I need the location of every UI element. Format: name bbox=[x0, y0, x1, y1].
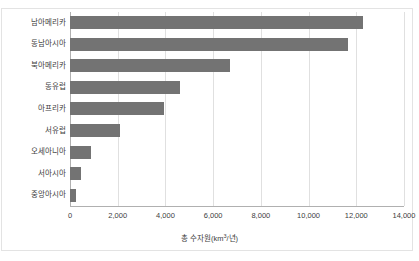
bar-row[interactable] bbox=[70, 184, 76, 206]
gridline bbox=[404, 12, 405, 206]
bar-row[interactable] bbox=[70, 163, 81, 185]
x-tick-label: 10,000 bbox=[297, 211, 320, 220]
x-tick-label: 4,000 bbox=[156, 211, 175, 220]
bar-row[interactable] bbox=[70, 77, 180, 99]
category-axis-labels: 남아메리카동남아시아북아메리카동유럽아프리카서유럽오세아니아서아시아중앙아시아 bbox=[0, 12, 66, 206]
category-label: 서유럽 bbox=[0, 127, 66, 135]
category-label: 오세아니아 bbox=[0, 148, 66, 156]
bar-row[interactable] bbox=[70, 120, 120, 142]
x-axis-title-prefix: 총 수자원(km bbox=[181, 234, 224, 243]
bar-row[interactable] bbox=[70, 141, 91, 163]
bar[interactable] bbox=[70, 124, 120, 137]
plot-area bbox=[70, 12, 404, 206]
bar-row[interactable] bbox=[70, 34, 348, 56]
x-tick-label: 6,000 bbox=[204, 211, 223, 220]
category-label: 남아메리카 bbox=[0, 19, 66, 27]
bar[interactable] bbox=[70, 59, 230, 72]
category-label: 동남아시아 bbox=[0, 40, 66, 48]
category-label: 중앙아시아 bbox=[0, 191, 66, 199]
x-tick-label: 12,000 bbox=[345, 211, 368, 220]
x-tick-label: 2,000 bbox=[108, 211, 127, 220]
x-axis-line bbox=[70, 206, 404, 207]
bar-row[interactable] bbox=[70, 98, 164, 120]
category-label: 동유럽 bbox=[0, 83, 66, 91]
gridline bbox=[356, 12, 357, 206]
bar[interactable] bbox=[70, 146, 91, 159]
bar[interactable] bbox=[70, 189, 76, 202]
x-tick-label: 8,000 bbox=[251, 211, 270, 220]
x-axis-title-suffix: /년) bbox=[227, 234, 239, 243]
category-label: 서아시아 bbox=[0, 170, 66, 178]
bar-row[interactable] bbox=[70, 55, 230, 77]
bar[interactable] bbox=[70, 167, 81, 180]
x-axis-title: 총 수자원(km3/년) bbox=[0, 232, 419, 243]
category-label: 북아메리카 bbox=[0, 62, 66, 70]
bar-chart: 남아메리카동남아시아북아메리카동유럽아프리카서유럽오세아니아서아시아중앙아시아 … bbox=[0, 0, 419, 261]
x-tick-label: 0 bbox=[68, 211, 72, 220]
category-label: 아프리카 bbox=[0, 105, 66, 113]
bar[interactable] bbox=[70, 38, 348, 51]
x-tick-label: 14,000 bbox=[393, 211, 416, 220]
bar[interactable] bbox=[70, 16, 363, 29]
bar[interactable] bbox=[70, 102, 164, 115]
bar-row[interactable] bbox=[70, 12, 363, 34]
bar[interactable] bbox=[70, 81, 180, 94]
